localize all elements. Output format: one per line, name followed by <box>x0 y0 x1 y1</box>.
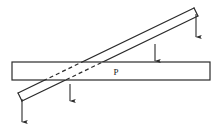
horizontal-beam <box>12 62 210 80</box>
point-label-p: P <box>113 67 118 77</box>
inclined-bar-hidden-segment <box>18 8 198 101</box>
diagram-canvas: P <box>0 0 223 125</box>
beam-diagram-figure: P <box>0 0 223 125</box>
inclined-bar-visible-segments <box>18 8 198 101</box>
inclined-bar-left-end-cap <box>18 93 22 101</box>
